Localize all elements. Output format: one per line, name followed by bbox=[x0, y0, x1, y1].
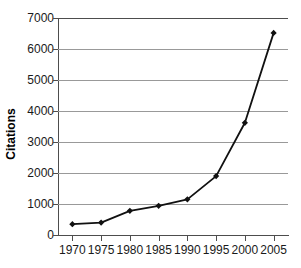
data-series-layer bbox=[0, 0, 301, 268]
data-point-1970 bbox=[69, 221, 75, 227]
citations-line-chart: Citations 01000200030004000500060007000 … bbox=[0, 0, 301, 268]
data-point-1985 bbox=[156, 203, 162, 209]
citations-line bbox=[72, 33, 273, 224]
data-point-1980 bbox=[127, 208, 133, 214]
citations-markers bbox=[69, 30, 276, 227]
data-point-1975 bbox=[98, 220, 104, 226]
data-point-2005 bbox=[271, 30, 277, 36]
